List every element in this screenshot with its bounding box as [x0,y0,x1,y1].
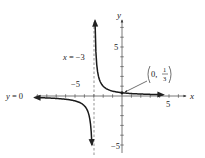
x-axis-label: x [189,91,194,101]
point-label-x: 0, [151,69,157,79]
y-axis [120,20,124,153]
x-tick-label-5: 5 [166,99,170,109]
y-tick-label-neg5: −5 [111,141,120,151]
vertical-asymptote-label: x = −3 [62,52,85,62]
curve-right-branch [95,21,163,95]
y-tick-label-5: 5 [114,42,118,52]
horizontal-asymptote-label: y = 0 [5,91,23,101]
point-label-numerator: 1 [163,66,166,73]
y-axis-label: y [116,10,121,20]
point-label: 0, 1 3 [148,66,171,83]
x-axis [36,94,186,98]
function-graph: y x −5 5 5 −5 x = −3 y = 0 0, 1 3 [0,0,205,158]
annotation-arrow [125,81,147,92]
curve-left-branch [35,98,92,145]
point-marker [120,91,123,94]
point-label-denominator: 3 [163,75,166,82]
x-tick-label-neg5: −5 [71,79,80,89]
